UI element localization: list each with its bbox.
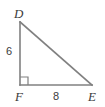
side-length-label-FE: 8 (53, 91, 59, 102)
segment-DE (20, 22, 92, 85)
vertex-label-E: E (88, 90, 96, 103)
side-length-label-DF: 6 (6, 46, 12, 57)
vertex-label-F: F (15, 90, 23, 103)
right-angle-marker-icon (20, 77, 28, 85)
vertex-label-D: D (14, 7, 23, 20)
geometry-figure: D F E 6 8 (0, 0, 105, 107)
